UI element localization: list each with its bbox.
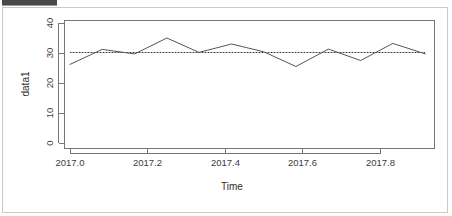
x-tick-label-2017-0: 2017.0 — [55, 157, 84, 168]
y-tick-label-40: 40 — [44, 18, 55, 29]
y-axis-title: data1 — [20, 71, 31, 96]
y-axis-ticks — [59, 24, 65, 144]
y-tick-label-0: 0 — [44, 140, 55, 145]
x-tick-label-2017-6: 2017.6 — [288, 157, 317, 168]
plot-box — [65, 21, 435, 149]
x-tick-label-2017-2: 2017.2 — [133, 157, 162, 168]
screenshot-root: 40 30 20 10 0 data1 2017.0 2017.2 2017.4… — [0, 0, 452, 216]
chart-canvas: 40 30 20 10 0 data1 2017.0 2017.2 2017.4… — [0, 0, 452, 216]
x-tick-label-2017-8: 2017.8 — [366, 157, 395, 168]
x-axis-ticks — [71, 149, 381, 154]
y-tick-label-30: 30 — [44, 48, 55, 59]
x-tick-label-2017-4: 2017.4 — [211, 157, 240, 168]
x-axis-title: Time — [221, 181, 243, 192]
y-tick-label-20: 20 — [44, 78, 55, 89]
y-tick-label-10: 10 — [44, 108, 55, 119]
time-series-plot: 40 30 20 10 0 data1 2017.0 2017.2 2017.4… — [0, 0, 452, 216]
